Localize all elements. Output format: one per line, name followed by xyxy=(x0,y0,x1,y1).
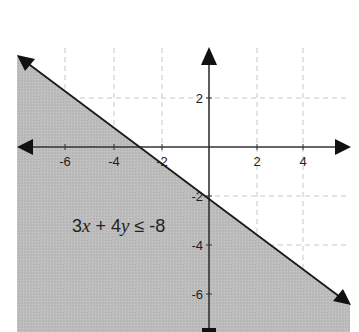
y-axis-down-arrow-icon xyxy=(202,328,216,332)
x-tick-label: -4 xyxy=(108,154,120,169)
inequality-graph: -6 -4 -2 2 4 2 -2 -4 -6 3x + 4y ≤ -8 xyxy=(0,0,359,332)
y-tick-label: -2 xyxy=(191,189,203,204)
x-tick-label: 4 xyxy=(299,154,306,169)
y-axis-up-arrow-icon xyxy=(201,47,217,65)
x-tick-label: 2 xyxy=(253,154,260,169)
y-tick-label: -6 xyxy=(191,287,203,302)
x-tick-label: -6 xyxy=(59,154,71,169)
x-tick-label: -2 xyxy=(156,154,168,169)
inequality-label: 3x + 4y ≤ -8 xyxy=(72,215,165,236)
y-tick-label: -4 xyxy=(191,238,203,253)
y-tick-label: 2 xyxy=(196,91,203,106)
x-axis-right-arrow-icon xyxy=(335,139,351,155)
shaded-solution-region xyxy=(17,55,350,332)
